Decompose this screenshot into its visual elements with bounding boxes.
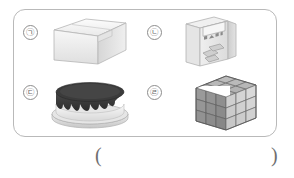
rubiks-cube-illustration bbox=[166, 74, 262, 132]
answer-blank[interactable]: ( ) bbox=[13, 142, 281, 172]
chocolate-cake-illustration bbox=[42, 74, 138, 132]
choice-marker-d: ㉣ bbox=[147, 85, 162, 100]
choice-marker-c: ㉢ bbox=[23, 85, 38, 100]
answer-paren-open: ( bbox=[95, 142, 102, 168]
choice-item-tissue-box[interactable]: ㉡ bbox=[144, 14, 264, 72]
choice-frame: ㉠ bbox=[13, 9, 277, 137]
cardboard-box-illustration bbox=[42, 14, 138, 72]
choice-marker-b: ㉡ bbox=[147, 25, 162, 40]
choice-item-cardboard-box[interactable]: ㉠ bbox=[20, 14, 140, 72]
answer-paren-close: ) bbox=[271, 142, 278, 168]
worksheet-question: ㉠ bbox=[0, 0, 294, 178]
choice-item-chocolate-cake[interactable]: ㉢ bbox=[20, 74, 140, 132]
choice-marker-a: ㉠ bbox=[23, 25, 38, 40]
choice-item-rubiks-cube[interactable]: ㉣ bbox=[144, 74, 264, 132]
tissue-box-illustration bbox=[166, 14, 262, 72]
